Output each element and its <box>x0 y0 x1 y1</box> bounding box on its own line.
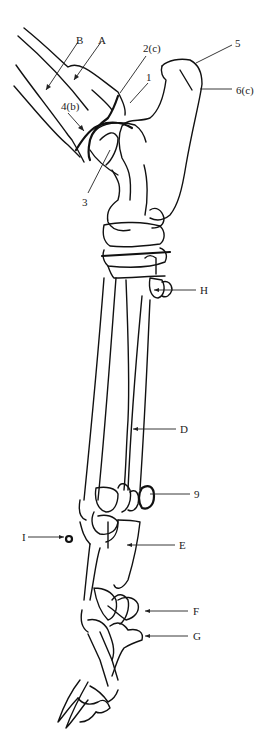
leader-2c <box>120 56 146 93</box>
leader-1 <box>130 83 148 103</box>
label-6c: 6(c) <box>236 85 254 96</box>
carpal-bones <box>102 208 172 298</box>
limb-skeleton-diagram <box>0 0 256 741</box>
claws <box>58 680 118 728</box>
arrowhead-f <box>145 609 150 613</box>
arrowhead-i <box>59 535 64 539</box>
leader-5 <box>196 45 232 63</box>
label-i: I <box>22 532 26 543</box>
label-2c: 2(c) <box>143 43 161 54</box>
label-1: 1 <box>146 72 152 83</box>
label-e: E <box>179 540 186 551</box>
upper-bones-a-b <box>14 28 125 162</box>
label-9: 9 <box>194 489 200 500</box>
sesamoid-bone-i <box>66 536 72 542</box>
leader-a <box>74 42 101 80</box>
metacarpal-shafts <box>84 278 150 500</box>
label-g: G <box>193 631 201 642</box>
phalanges <box>81 588 142 686</box>
arrowhead-h <box>154 288 159 292</box>
arrowhead-d <box>133 427 138 431</box>
leader-3 <box>88 150 110 193</box>
arrowhead-b <box>46 84 51 90</box>
label-a: A <box>98 35 106 46</box>
label-4b: 4(b) <box>61 101 79 112</box>
distal-joint <box>66 484 154 600</box>
label-d: D <box>180 424 188 435</box>
label-f: F <box>193 606 199 617</box>
olecranon <box>119 59 202 220</box>
label-b: B <box>76 35 83 46</box>
label-h: H <box>200 285 208 296</box>
arrowhead-a <box>74 74 79 80</box>
label-5: 5 <box>235 38 241 49</box>
arrowhead-e <box>127 543 132 547</box>
label-3: 3 <box>82 197 88 208</box>
arrowhead-g <box>145 634 150 638</box>
elbow-joint <box>76 96 146 231</box>
label-leaders <box>28 42 232 638</box>
